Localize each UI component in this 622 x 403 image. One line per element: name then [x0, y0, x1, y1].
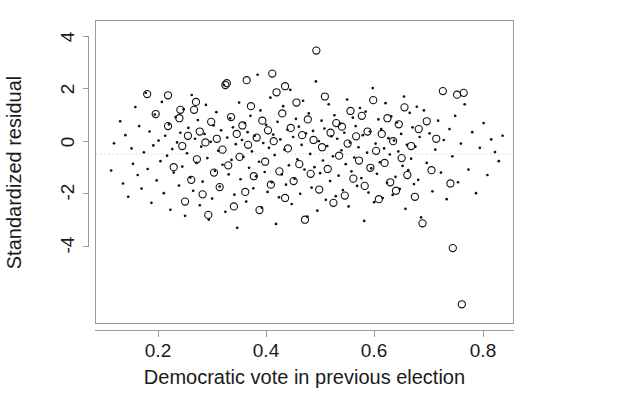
data-point-circle — [338, 123, 345, 130]
data-point-circle — [219, 146, 226, 153]
data-point-circle — [287, 124, 294, 131]
data-point-dot — [359, 107, 362, 110]
data-point-dot — [417, 179, 420, 182]
data-point-dot — [245, 200, 248, 203]
data-point-circle — [415, 126, 422, 133]
data-point-dot — [387, 137, 390, 140]
data-point-dot — [161, 101, 164, 104]
data-point-circle — [299, 132, 306, 139]
data-point-circle — [202, 139, 209, 146]
data-point-dot — [258, 160, 261, 163]
data-point-circle — [170, 164, 177, 171]
data-point-dot — [297, 125, 300, 128]
data-point-dot — [326, 145, 329, 148]
data-point-circle — [181, 198, 188, 205]
data-point-circle — [449, 245, 456, 252]
data-point-dot — [192, 189, 195, 192]
data-point-dot — [478, 146, 481, 149]
data-point-circle — [395, 121, 402, 128]
data-point-dot — [186, 152, 189, 155]
data-point-dot — [340, 149, 343, 152]
data-point-dot — [434, 148, 437, 151]
data-point-dot — [292, 136, 295, 139]
data-point-dot — [143, 151, 146, 154]
data-point-dot — [497, 160, 500, 163]
data-point-dot — [360, 177, 363, 180]
data-point-dot — [239, 178, 242, 181]
data-point-circle — [423, 118, 430, 125]
data-point-dot — [312, 130, 315, 133]
data-point-dot — [206, 157, 209, 160]
data-point-dot — [383, 147, 386, 150]
data-point-circle — [243, 77, 250, 84]
data-point-circle — [330, 199, 337, 206]
data-point-dot — [279, 138, 282, 141]
data-point-dot — [249, 114, 252, 117]
data-point-dot — [322, 159, 325, 162]
data-point-dot — [178, 184, 181, 187]
data-point-dot — [440, 171, 443, 174]
data-point-dot — [295, 118, 298, 121]
data-point-circle — [433, 135, 440, 142]
data-point-dot — [343, 131, 346, 134]
data-point-dot — [148, 130, 151, 133]
data-point-dot — [136, 174, 139, 177]
data-point-dot — [234, 143, 237, 146]
data-point-dot — [146, 168, 149, 171]
scatter-plot-figure: 0.2 0.4 0.6 0.8 4 2 0 -2 -4 Democratic v… — [0, 0, 622, 403]
data-point-circle — [454, 91, 461, 98]
data-point-dot — [246, 131, 249, 134]
data-point-dot — [357, 146, 360, 149]
data-point-dot — [428, 132, 431, 135]
data-point-dot — [134, 106, 137, 109]
data-point-dot — [209, 140, 212, 143]
data-point-dot — [384, 102, 387, 105]
data-point-dot — [364, 110, 367, 113]
data-point-circle — [398, 155, 405, 162]
data-point-circle — [419, 220, 426, 227]
data-point-dot — [227, 173, 230, 176]
data-point-dot — [367, 191, 370, 194]
data-point-dot — [176, 141, 179, 144]
data-point-circle — [191, 106, 198, 113]
data-point-dot — [300, 143, 303, 146]
data-point-dot — [388, 153, 391, 156]
data-point-dot — [197, 119, 200, 122]
data-point-dot — [467, 168, 470, 171]
y-tick-label-4: -4 — [58, 234, 78, 256]
data-point-circle — [358, 112, 365, 119]
data-point-dot — [374, 142, 377, 145]
data-point-circle — [458, 301, 465, 308]
x-tick-1 — [266, 331, 267, 337]
data-point-dot — [415, 105, 418, 108]
data-point-circle — [324, 165, 331, 172]
plot-panel — [95, 20, 514, 324]
data-point-dot — [431, 190, 434, 193]
y-axis-title: Standardized residual — [0, 20, 30, 324]
data-point-dot — [408, 111, 411, 114]
data-point-dot — [215, 111, 218, 114]
data-point-circle — [253, 134, 260, 141]
data-point-circle — [378, 130, 385, 137]
data-point-dot — [397, 150, 400, 153]
data-points-group — [110, 47, 504, 308]
data-point-circle — [276, 168, 283, 175]
data-point-dot — [230, 159, 233, 162]
data-point-circle — [316, 186, 323, 193]
data-point-dot — [460, 142, 463, 145]
data-point-dot — [361, 134, 364, 137]
data-point-dot — [445, 198, 448, 201]
data-point-circle — [164, 92, 171, 99]
data-point-dot — [169, 208, 172, 211]
data-point-circle — [439, 87, 446, 94]
data-point-dot — [265, 124, 268, 127]
data-point-dot — [282, 105, 285, 108]
data-point-dot — [494, 151, 497, 154]
data-point-circle — [256, 206, 263, 213]
data-point-dot — [442, 139, 445, 142]
data-point-dot — [336, 137, 339, 140]
data-point-dot — [323, 127, 326, 130]
data-point-dot — [269, 96, 272, 99]
data-point-dot — [356, 185, 359, 188]
data-point-circle — [264, 127, 271, 134]
